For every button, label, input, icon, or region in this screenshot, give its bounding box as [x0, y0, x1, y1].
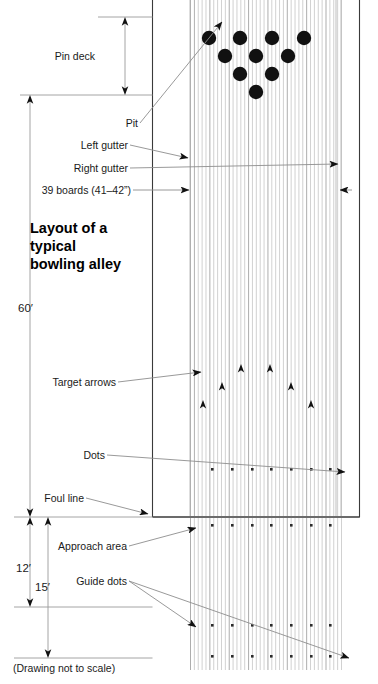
guide-dot-a1: [211, 524, 214, 527]
guide-dot-c2: [231, 655, 234, 658]
guide-dot-a2: [231, 524, 234, 527]
figure-title-line-1: Layout of a: [30, 220, 108, 236]
dimension-15ft: 15′: [35, 581, 50, 593]
guide-dot-c6: [310, 655, 313, 658]
guide-dot-b6: [310, 624, 313, 627]
pin-3: [265, 67, 279, 81]
guide-dot-b7: [329, 624, 332, 627]
label-left-gutter: Left gutter: [81, 139, 129, 151]
label-right-gutter: Right gutter: [74, 162, 129, 174]
leader-target-arrows: [118, 372, 201, 382]
label-pin-deck: Pin deck: [55, 50, 96, 62]
guide-dot-c3: [251, 655, 254, 658]
guide-dot-a4: [270, 524, 273, 527]
guide-dot-c4: [270, 655, 273, 658]
reference-rules: [14, 17, 153, 658]
dim-pin-deck: [122, 17, 129, 95]
dimension-lines: [27, 17, 129, 658]
leader-left-gutter: [130, 145, 188, 158]
leader-approach-area: [129, 528, 196, 546]
figure-title-line-3: bowling alley: [30, 256, 121, 272]
figure-title-line-2: typical: [30, 238, 76, 254]
lane-dot-4: [270, 468, 273, 471]
pin-10: [297, 31, 311, 45]
guide-dot-c7: [329, 655, 332, 658]
label-dots: Dots: [83, 449, 105, 461]
guide-dot-b1: [211, 624, 214, 627]
lane-surface: [190, 0, 342, 670]
bowling-alley-diagram: Pin deck Pit Left gutter Right gutter 39…: [0, 0, 378, 684]
label-target-arrows: Target arrows: [52, 376, 116, 388]
pin-2: [233, 67, 247, 81]
pin-8: [233, 31, 247, 45]
label-foul-line: Foul line: [44, 492, 84, 504]
text-labels: Pin deck Pit Left gutter Right gutter 39…: [13, 50, 138, 674]
label-guide-dots: Guide dots: [76, 575, 127, 587]
pin-4: [218, 49, 232, 63]
pin-5: [249, 49, 263, 63]
guide-dot-c1: [211, 655, 214, 658]
pin-6: [281, 49, 295, 63]
dimension-60ft: 60′: [18, 302, 33, 314]
leader-guide-dots-1: [129, 581, 196, 627]
lane-dot-7: [329, 468, 332, 471]
lane-dot-2: [231, 468, 234, 471]
guide-dot-b5: [290, 624, 293, 627]
dimension-12ft: 12′: [16, 562, 31, 574]
label-boards: 39 boards (41–42”): [42, 184, 131, 196]
guide-dot-b4: [270, 624, 273, 627]
pin-9: [265, 31, 279, 45]
leader-foul-line: [86, 498, 148, 514]
figure-note: (Drawing not to scale): [13, 662, 115, 674]
label-pit: Pit: [126, 117, 138, 129]
guide-dot-b2: [231, 624, 234, 627]
guide-dot-a6: [310, 524, 313, 527]
lane-dot-1: [211, 468, 214, 471]
guide-dot-a5: [290, 524, 293, 527]
guide-dot-a3: [251, 524, 254, 527]
lane-dot-3: [251, 468, 254, 471]
diagram-canvas: Pin deck Pit Left gutter Right gutter 39…: [0, 0, 378, 684]
guide-dot-c5: [290, 655, 293, 658]
pin-1: [249, 85, 263, 99]
guide-dot-a7: [329, 524, 332, 527]
label-approach-area: Approach area: [58, 540, 127, 552]
